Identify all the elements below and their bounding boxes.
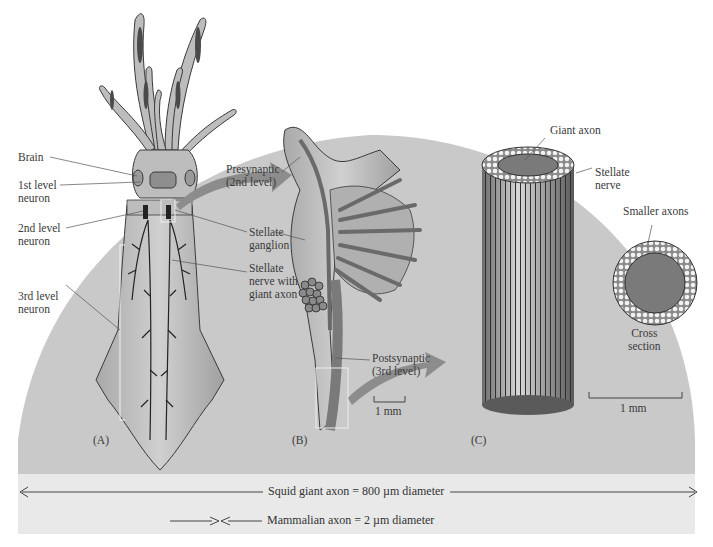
dome-base [18, 440, 695, 474]
label-cross-section: Cross section [628, 327, 661, 353]
label-stellate-nerve-giant-axon: Stellate nerve with giant axon [249, 262, 298, 301]
scale-bar-c-label: 1 mm [620, 402, 647, 415]
label-line: neuron [18, 235, 60, 248]
label-postsynaptic: Postsynaptic (3rd level) [372, 352, 430, 378]
label-presynaptic: Presynaptic (2nd level) [226, 163, 280, 189]
label-first-level-neuron: 1st level neuron [18, 179, 57, 205]
label-line: Stellate [249, 226, 289, 239]
label-line: nerve [595, 179, 630, 192]
label-giant-axon: Giant axon [550, 124, 601, 137]
label-line: section [628, 340, 661, 353]
squid-axon-caption: Squid giant axon = 800 µm diameter [265, 484, 447, 499]
label-line: neuron [18, 303, 59, 316]
label-stellate-ganglion: Stellate ganglion [249, 226, 289, 252]
label-stellate-nerve: Stellate nerve [595, 166, 630, 192]
label-second-level-neuron: 2nd level neuron [18, 222, 60, 248]
label-third-level-neuron: 3rd level neuron [18, 290, 59, 316]
label-line: Stellate [249, 262, 298, 275]
figure-artwork [0, 0, 713, 547]
label-line: 3rd level [18, 290, 59, 303]
label-line: 1st level [18, 179, 57, 192]
scale-bar-b-label: 1 mm [375, 405, 402, 418]
label-line: 2nd level [18, 222, 60, 235]
label-line: Stellate [595, 166, 630, 179]
label-line: Cross [628, 327, 661, 340]
label-smaller-axons: Smaller axons [623, 205, 688, 218]
label-line: nerve with [249, 275, 298, 288]
label-brain: Brain [18, 151, 44, 164]
panel-label-c: (C) [471, 434, 486, 446]
label-line: Postsynaptic [372, 352, 430, 365]
label-line: ganglion [249, 239, 289, 252]
mammal-axon-caption: Mammalian axon = 2 µm diameter [264, 513, 437, 528]
label-line: giant axon [249, 288, 298, 301]
label-line: (3rd level) [372, 365, 430, 378]
label-line: (2nd level) [226, 176, 280, 189]
squid-giant-axon-figure: Brain 1st level neuron 2nd level neuron … [0, 0, 713, 547]
label-line: Presynaptic [226, 163, 280, 176]
panel-label-b: (B) [292, 434, 307, 446]
label-line: neuron [18, 192, 57, 205]
panel-label-a: (A) [93, 434, 109, 446]
